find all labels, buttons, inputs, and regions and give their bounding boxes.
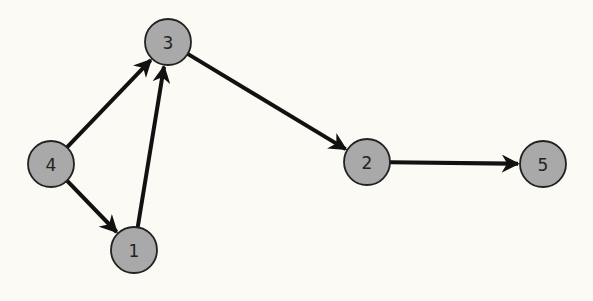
edge-4-to-3 xyxy=(67,60,151,147)
edges-layer xyxy=(67,54,518,232)
node-label: 1 xyxy=(129,241,140,261)
edge-1-to-3 xyxy=(138,67,164,228)
nodes-layer: 12345 xyxy=(28,19,566,273)
edge-2-to-5 xyxy=(390,162,518,163)
node-label: 3 xyxy=(163,33,174,53)
edge-3-to-2 xyxy=(188,54,346,149)
node-3: 3 xyxy=(145,19,191,65)
node-5: 5 xyxy=(520,141,566,187)
node-4: 4 xyxy=(28,141,74,187)
node-label: 2 xyxy=(362,153,373,173)
node-2: 2 xyxy=(344,139,390,185)
edge-4-to-1 xyxy=(67,181,117,232)
node-1: 1 xyxy=(111,227,157,273)
graph-canvas: 12345 xyxy=(0,0,593,301)
node-label: 5 xyxy=(538,155,549,175)
node-label: 4 xyxy=(46,155,57,175)
